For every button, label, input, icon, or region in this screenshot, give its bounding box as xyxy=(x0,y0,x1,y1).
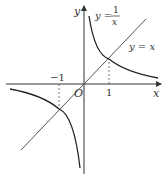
tick-label-pos-1: 1 xyxy=(106,87,112,98)
line-label: y = x xyxy=(128,41,155,52)
function-graph: y x O 1 −1 y = 1 x y = x xyxy=(0,0,168,176)
hyperbola-label-lhs: y = xyxy=(94,10,112,21)
tick-label-neg-1: −1 xyxy=(50,72,65,83)
hyperbola-label-num: 1 xyxy=(113,5,119,15)
hyperbola-branch-negative xyxy=(10,89,80,168)
origin-label: O xyxy=(74,87,83,100)
graph-canvas: y x O 1 −1 y = 1 x y = x xyxy=(0,0,168,176)
y-axis-label: y xyxy=(73,5,81,18)
x-axis-label: x xyxy=(153,87,160,100)
hyperbola-label-den: x xyxy=(112,17,117,27)
